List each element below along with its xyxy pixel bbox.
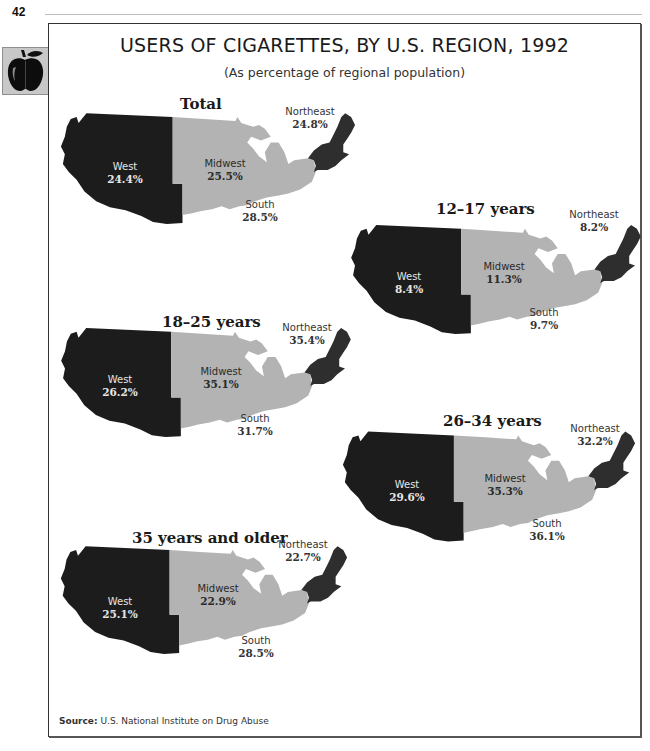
map-panel-26-34: 26–34 years West29.6% Midwest35.3% North… xyxy=(337,412,642,562)
map-panel-18-25: 18–25 years West26.2% Midwest35.1% North… xyxy=(55,313,365,463)
map-panel-35-plus: 35 years and older West25.1% Midwest22.9… xyxy=(55,527,365,677)
frame-shadow-bottom xyxy=(49,736,642,738)
region-label-south: South28.5% xyxy=(235,198,285,224)
region-label-midwest: Midwest22.9% xyxy=(188,582,248,608)
map-panel-total: Total West24.4% Midwest25.5% Northeast24… xyxy=(55,95,365,245)
region-label-northeast: Northeast22.7% xyxy=(273,538,333,564)
region-label-west: West26.2% xyxy=(100,373,140,399)
region-label-south: South31.7% xyxy=(230,412,280,438)
region-label-northeast: Northeast24.8% xyxy=(280,105,340,131)
region-label-west: West24.4% xyxy=(105,160,145,186)
source-label: Source: xyxy=(59,716,98,726)
region-label-northeast: Northeast8.2% xyxy=(564,208,624,234)
region-label-west: West8.4% xyxy=(389,270,429,296)
source-text: U.S. National Institute on Drug Abuse xyxy=(100,716,268,726)
page-number: 42 xyxy=(12,5,25,19)
region-label-west: West25.1% xyxy=(100,595,140,621)
region-label-northeast: Northeast35.4% xyxy=(277,321,337,347)
region-label-south: South36.1% xyxy=(522,517,572,543)
frame-shadow-right xyxy=(640,24,642,738)
panel-title: 12–17 years xyxy=(436,200,535,218)
header-rule xyxy=(45,14,642,15)
region-label-south: South9.7% xyxy=(524,306,564,332)
apple-glyph-icon xyxy=(3,48,48,94)
source-note: Source: U.S. National Institute on Drug … xyxy=(59,716,269,726)
region-label-midwest: Midwest25.5% xyxy=(195,157,255,183)
panel-title: Total xyxy=(180,95,222,113)
region-label-west: West29.6% xyxy=(387,478,427,504)
region-label-midwest: Midwest35.1% xyxy=(191,365,251,391)
region-label-northeast: Northeast32.2% xyxy=(565,422,625,448)
map-panel-12-17: 12–17 years West8.4% Midwest11.3% Northe… xyxy=(344,198,644,348)
panel-title: 26–34 years xyxy=(443,412,542,430)
region-label-midwest: Midwest35.3% xyxy=(475,472,535,498)
region-label-south: South28.5% xyxy=(231,634,281,660)
figure-subtitle: (As percentage of regional population) xyxy=(48,65,641,80)
figure-title: USERS OF CIGARETTES, BY U.S. REGION, 199… xyxy=(48,34,641,56)
region-label-midwest: Midwest11.3% xyxy=(474,260,534,286)
apple-icon xyxy=(2,47,49,95)
